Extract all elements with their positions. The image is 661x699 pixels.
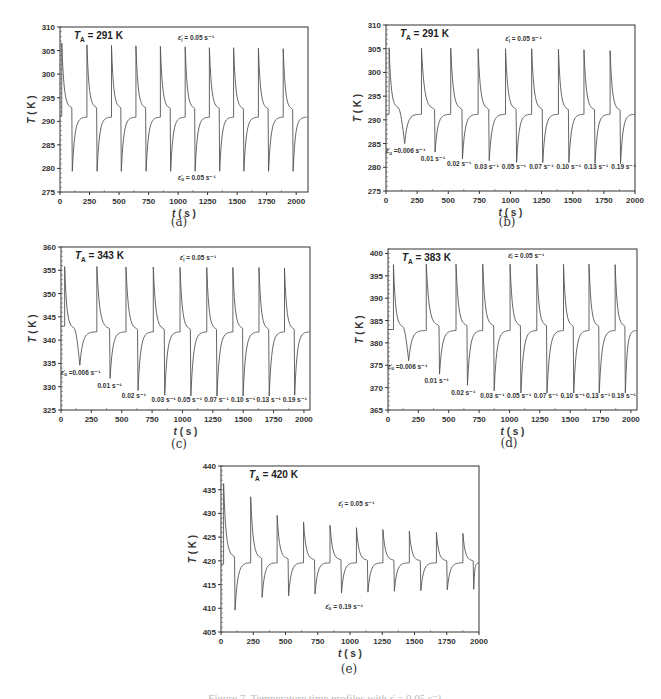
y-tick-label: 430 [203, 509, 217, 518]
subfigure-label-a: (a) [159, 215, 199, 229]
x-tick-label: 250 [247, 637, 261, 646]
subfigure-label-e: (e) [329, 662, 369, 676]
y-tick-label: 425 [203, 533, 217, 542]
y-axis-title: T ( K ) [187, 535, 198, 563]
subfigure-label-b: (b) [487, 215, 527, 229]
x-tick-label: 0 [219, 637, 224, 646]
strain-rate-annotation: ε̇u = 0.19 s⁻¹ [325, 603, 363, 612]
x-tick-label: 1000 [341, 637, 359, 646]
y-tick-label: 410 [203, 604, 217, 613]
y-tick-label: 420 [203, 557, 217, 566]
x-tick-label: 500 [279, 637, 293, 646]
figure-caption: Figure 7. Temperature time profiles with… [0, 690, 661, 699]
strain-rate-annotation: ε̇l = 0.05 s⁻¹ [338, 500, 374, 509]
chart-e: 4054104154204254304354400250500750100012… [0, 0, 661, 699]
y-tick-label: 440 [203, 462, 217, 471]
x-tick-label: 2000 [470, 637, 488, 646]
subfigure-label-c: (c) [159, 437, 199, 451]
x-tick-label: 1250 [373, 637, 391, 646]
subfigure-label-d: (d) [489, 436, 529, 450]
x-tick-label: 1500 [406, 637, 424, 646]
y-tick-label: 405 [203, 628, 217, 637]
y-tick-label: 435 [203, 486, 217, 495]
y-tick-label: 415 [203, 581, 217, 590]
ambient-temperature-label: TA = 420 K [249, 469, 299, 482]
x-axis-title: t ( s ) [338, 648, 362, 659]
x-tick-label: 1750 [438, 637, 456, 646]
x-tick-label: 750 [311, 637, 325, 646]
